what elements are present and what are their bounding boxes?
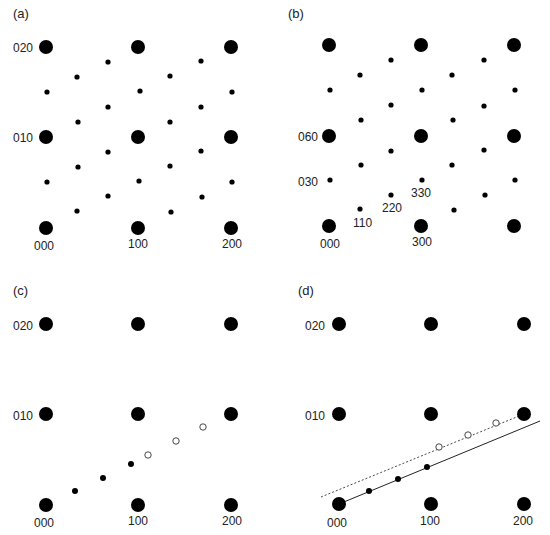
panel-c: (c)020010000100200 <box>13 283 242 530</box>
filled-spot <box>395 476 401 482</box>
superlattice-spot <box>105 193 110 198</box>
index-label: 330 <box>411 186 431 200</box>
index-label: 000 <box>34 516 54 530</box>
index-label: 000 <box>327 516 347 530</box>
main-reflection-spot <box>224 407 238 421</box>
main-reflection-spot <box>322 38 336 52</box>
superlattice-spot <box>137 88 142 93</box>
superlattice-spot <box>136 178 141 183</box>
main-reflection-spot <box>332 317 346 331</box>
main-reflection-spot <box>424 497 438 511</box>
index-label: 020 <box>13 41 33 55</box>
open-spot <box>436 444 442 450</box>
panel-a: (a)020010000100200 <box>13 6 242 253</box>
index-label: 100 <box>128 514 148 528</box>
main-reflection-spot <box>39 498 53 512</box>
superlattice-spot <box>105 59 110 64</box>
index-label: 000 <box>34 239 54 253</box>
superlattice-spot <box>388 102 393 107</box>
superlattice-spot <box>482 192 487 197</box>
index-label: 060 <box>298 130 318 144</box>
panel-d: (d)020010000100200 <box>298 283 540 530</box>
main-reflection-spot <box>131 407 145 421</box>
index-label: 010 <box>13 409 33 423</box>
superlattice-spot <box>229 89 234 94</box>
superlattice-spot <box>198 58 203 63</box>
index-label: 300 <box>412 235 432 249</box>
superlattice-spot <box>358 162 363 167</box>
panel-label: (b) <box>288 6 304 21</box>
main-reflection-spot <box>39 407 53 421</box>
panel-b: (b)060030330220110000300 <box>288 6 521 251</box>
index-label: 020 <box>13 319 33 333</box>
main-reflection-spot <box>131 221 145 235</box>
superlattice-spot <box>167 73 172 78</box>
filled-spot <box>100 475 106 481</box>
superlattice-spot <box>358 117 363 122</box>
filled-spot <box>366 488 372 494</box>
superlattice-spot <box>167 163 172 168</box>
superlattice-spot <box>198 104 203 109</box>
superlattice-spot <box>167 119 172 124</box>
superlattice-spot <box>44 89 49 94</box>
index-label: 200 <box>513 514 533 528</box>
superlattice-spot <box>357 206 362 211</box>
main-reflection-spot <box>332 407 346 421</box>
superlattice-spot <box>229 179 234 184</box>
superlattice-spot <box>327 87 332 92</box>
superlattice-spot <box>74 74 79 79</box>
main-reflection-spot <box>517 497 531 511</box>
open-spot <box>200 424 206 430</box>
superlattice-spot <box>75 164 80 169</box>
main-reflection-spot <box>332 497 346 511</box>
main-reflection-spot <box>131 40 145 54</box>
index-label: 220 <box>382 201 402 215</box>
main-reflection-spot <box>39 317 53 331</box>
superlattice-spot <box>327 177 332 182</box>
main-reflection-spot <box>224 317 238 331</box>
superlattice-spot <box>481 57 486 62</box>
superlattice-spot <box>512 87 517 92</box>
main-reflection-spot <box>414 129 428 143</box>
main-reflection-spot <box>131 498 145 512</box>
dashed-line <box>321 414 524 497</box>
open-spot <box>465 432 471 438</box>
index-label: 200 <box>222 514 242 528</box>
superlattice-spot <box>512 177 517 182</box>
index-label: 010 <box>13 131 33 145</box>
index-label: 030 <box>298 175 318 189</box>
main-reflection-spot <box>224 130 238 144</box>
filled-spot <box>424 464 430 470</box>
superlattice-spot <box>198 148 203 153</box>
index-label: 100 <box>420 514 440 528</box>
open-spot <box>145 452 151 458</box>
main-reflection-spot <box>224 221 238 235</box>
main-reflection-spot <box>517 407 531 421</box>
main-reflection-spot <box>414 219 428 233</box>
superlattice-spot <box>44 179 49 184</box>
superlattice-spot <box>388 192 393 197</box>
superlattice-spot <box>357 72 362 77</box>
main-reflection-spot <box>322 129 336 143</box>
superlattice-spot <box>419 177 424 182</box>
superlattice-spot <box>75 119 80 124</box>
main-reflection-spot <box>424 317 438 331</box>
main-reflection-spot <box>322 219 336 233</box>
main-reflection-spot <box>39 130 53 144</box>
main-reflection-spot <box>507 219 521 233</box>
superlattice-spot <box>388 57 393 62</box>
index-label: 010 <box>305 409 325 423</box>
superlattice-spot <box>105 149 110 154</box>
superlattice-spot <box>105 104 110 109</box>
superlattice-spot <box>449 162 454 167</box>
superlattice-spot <box>419 87 424 92</box>
index-label: 100 <box>128 237 148 251</box>
superlattice-spot <box>481 103 486 108</box>
diffraction-figure: (a)020010000100200(b)0600303302201100003… <box>0 0 550 535</box>
filled-spot <box>72 488 78 494</box>
index-label: 200 <box>222 237 242 251</box>
main-reflection-spot <box>39 40 53 54</box>
filled-spot <box>128 461 134 467</box>
superlattice-spot <box>168 209 173 214</box>
superlattice-spot <box>388 148 393 153</box>
